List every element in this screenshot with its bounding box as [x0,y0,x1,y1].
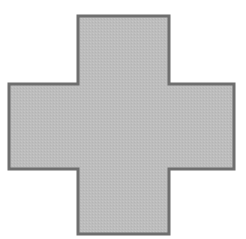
cross-diagram [0,0,246,239]
cross-shape [9,16,234,234]
